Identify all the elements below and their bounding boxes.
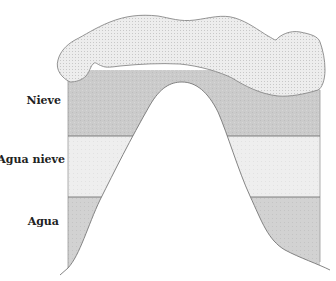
zone-label-rain: Agua — [27, 215, 59, 228]
precipitation-zones-diagram: Nieve Agua nieve Agua — [0, 0, 336, 281]
zone-label-snow: Nieve — [26, 94, 61, 107]
zone-label-sleet: Agua nieve — [0, 153, 65, 166]
